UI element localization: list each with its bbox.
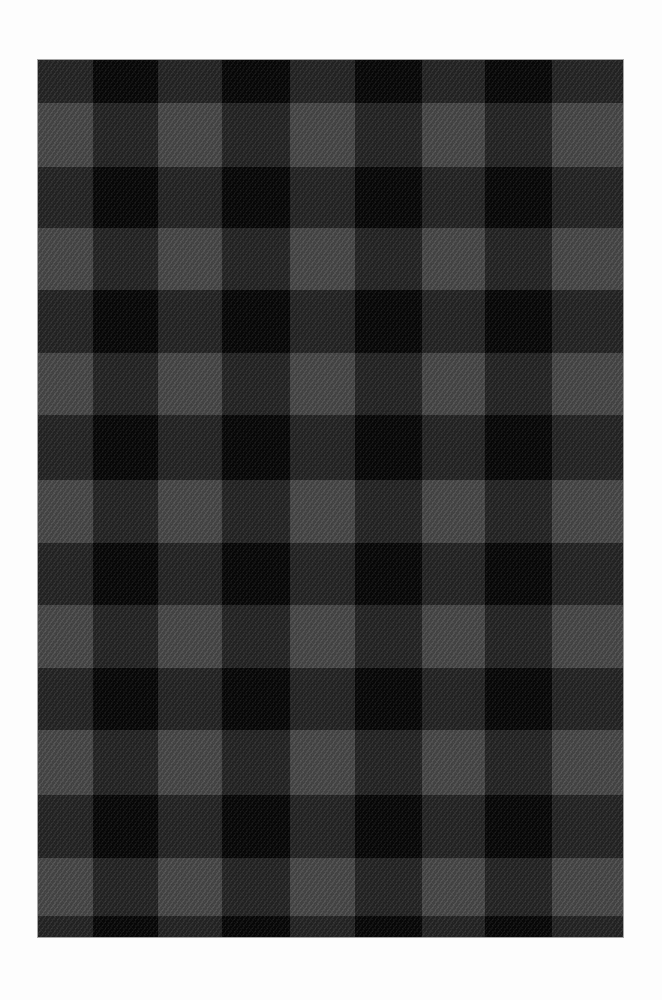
plaid-cell (355, 228, 422, 290)
plaid-cell (222, 668, 290, 730)
plaid-cell (222, 543, 290, 605)
plaid-cell (290, 353, 355, 415)
plaid-cell (93, 605, 158, 668)
plaid-cell (38, 480, 93, 543)
plaid-cell (158, 167, 222, 228)
plaid-cell (552, 290, 623, 353)
plaid-cell (355, 858, 422, 916)
plaid-cell (552, 916, 623, 937)
plaid-cell (158, 916, 222, 937)
plaid-cell (222, 795, 290, 858)
plaid-cell (485, 543, 552, 605)
plaid-cell (355, 605, 422, 668)
plaid-cell (485, 353, 552, 415)
plaid-cell (355, 167, 422, 228)
plaid-cell (93, 480, 158, 543)
plaid-cell (38, 605, 93, 668)
plaid-cell (422, 290, 485, 353)
plaid-cell (93, 60, 158, 103)
plaid-cell (158, 415, 222, 480)
plaid-cell (290, 228, 355, 290)
plaid-cell (93, 795, 158, 858)
plaid-cell (485, 480, 552, 543)
plaid-cell (93, 858, 158, 916)
plaid-cell (552, 480, 623, 543)
plaid-cell (93, 228, 158, 290)
plaid-cell (222, 730, 290, 795)
plaid-cell (422, 916, 485, 937)
plaid-cell (485, 605, 552, 668)
plaid-cell (552, 543, 623, 605)
plaid-cell (485, 228, 552, 290)
page-background (0, 0, 662, 1000)
plaid-cell (552, 167, 623, 228)
plaid-cell (485, 730, 552, 795)
plaid-cell (552, 730, 623, 795)
plaid-cell (422, 668, 485, 730)
plaid-cell (552, 415, 623, 480)
plaid-cell (158, 290, 222, 353)
plaid-cell (422, 60, 485, 103)
plaid-cell (158, 228, 222, 290)
plaid-cell (93, 167, 158, 228)
plaid-cell (222, 290, 290, 353)
plaid-cell (290, 480, 355, 543)
plaid-cell (422, 605, 485, 668)
plaid-cell (422, 795, 485, 858)
plaid-fabric-swatch (38, 60, 623, 937)
plaid-cell (158, 605, 222, 668)
plaid-cell (290, 167, 355, 228)
plaid-cell (485, 916, 552, 937)
plaid-cell (290, 605, 355, 668)
plaid-cell (355, 543, 422, 605)
plaid-cell (355, 103, 422, 167)
plaid-cell (355, 353, 422, 415)
plaid-cell (158, 668, 222, 730)
plaid-cell (355, 730, 422, 795)
plaid-cell (290, 795, 355, 858)
plaid-cell (422, 480, 485, 543)
plaid-cell (158, 730, 222, 795)
plaid-cell (158, 103, 222, 167)
plaid-cell (552, 605, 623, 668)
plaid-cell (38, 167, 93, 228)
plaid-cell (290, 730, 355, 795)
plaid-cell (222, 353, 290, 415)
plaid-cell (422, 167, 485, 228)
plaid-cell (552, 668, 623, 730)
plaid-cell (222, 605, 290, 668)
plaid-cell (422, 543, 485, 605)
plaid-cell (93, 415, 158, 480)
plaid-cell (222, 916, 290, 937)
plaid-cell (222, 858, 290, 916)
plaid-cell (290, 415, 355, 480)
plaid-cell (485, 668, 552, 730)
plaid-cell (93, 353, 158, 415)
plaid-cell (38, 353, 93, 415)
plaid-cell (552, 228, 623, 290)
plaid-cell (222, 60, 290, 103)
plaid-cell (552, 103, 623, 167)
plaid-cell (158, 480, 222, 543)
plaid-cell (552, 795, 623, 858)
plaid-cell (290, 290, 355, 353)
plaid-cell (355, 290, 422, 353)
plaid-cell (158, 858, 222, 916)
plaid-cell (38, 795, 93, 858)
plaid-cell (552, 60, 623, 103)
plaid-cell (222, 228, 290, 290)
plaid-cell (485, 415, 552, 480)
plaid-cell (93, 916, 158, 937)
plaid-cell (355, 415, 422, 480)
plaid-cell (38, 668, 93, 730)
plaid-cell (290, 60, 355, 103)
plaid-cell (93, 543, 158, 605)
plaid-cell (158, 60, 222, 103)
plaid-cell (422, 730, 485, 795)
plaid-cell (552, 353, 623, 415)
plaid-cell (158, 543, 222, 605)
plaid-cell (422, 353, 485, 415)
plaid-cell (93, 668, 158, 730)
plaid-cell (485, 167, 552, 228)
plaid-cell (485, 858, 552, 916)
